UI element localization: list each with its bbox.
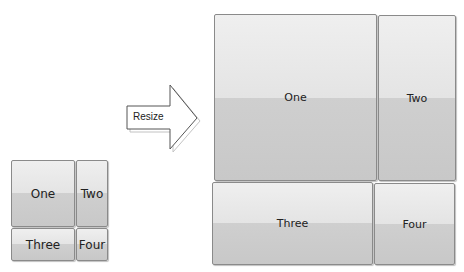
tile-label: Two bbox=[407, 92, 428, 105]
tile-two-small: Two bbox=[76, 160, 108, 227]
tile-label: Four bbox=[79, 238, 105, 252]
tile-one-large: One bbox=[214, 14, 377, 181]
tile-three-small: Three bbox=[11, 228, 75, 261]
tile-four-small: Four bbox=[76, 228, 108, 261]
tile-label: One bbox=[31, 187, 55, 201]
tile-two-large: Two bbox=[378, 15, 456, 181]
tile-label: One bbox=[284, 91, 306, 104]
tile-label: Three bbox=[26, 238, 60, 252]
tile-four-large: Four bbox=[374, 183, 455, 265]
tile-label: Three bbox=[277, 217, 309, 230]
tile-one-small: One bbox=[11, 160, 75, 227]
tile-label: Two bbox=[81, 187, 104, 201]
tile-label: Four bbox=[402, 218, 426, 231]
resize-label: Resize bbox=[133, 111, 164, 122]
tile-three-large: Three bbox=[212, 182, 373, 265]
